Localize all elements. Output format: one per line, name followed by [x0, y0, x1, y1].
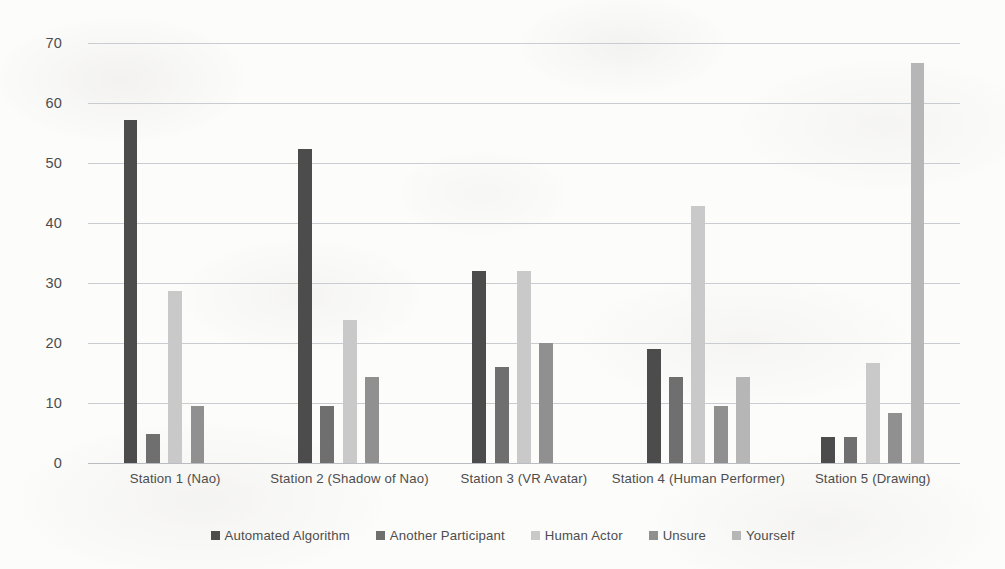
y-tick-label: 50 — [45, 155, 62, 171]
bar[interactable] — [472, 271, 486, 463]
bar[interactable] — [736, 377, 750, 463]
bar[interactable] — [539, 343, 553, 463]
gridline-0 — [88, 463, 960, 464]
y-tick-label: 40 — [45, 215, 62, 231]
plot-area — [88, 43, 960, 463]
legend-item[interactable]: Automated Algorithm — [211, 528, 350, 543]
bar-slot — [817, 43, 839, 463]
bar[interactable] — [714, 406, 728, 463]
bar-chart: 706050403020100 Station 1 (Nao)Station 2… — [0, 0, 1005, 569]
legend-item[interactable]: Human Actor — [531, 528, 623, 543]
legend-item[interactable]: Another Participant — [376, 528, 505, 543]
bar-group-bars — [294, 43, 406, 463]
bar-slot — [164, 43, 186, 463]
bar[interactable] — [866, 363, 880, 463]
bar-slot — [513, 43, 535, 463]
bar[interactable] — [691, 206, 705, 463]
bar-slot — [338, 43, 360, 463]
bar-group — [817, 43, 929, 463]
x-category-label: Station 4 (Human Performer) — [611, 470, 785, 488]
y-axis-tick-labels: 706050403020100 — [0, 43, 76, 463]
bar-group — [643, 43, 755, 463]
bar-group-bars — [119, 43, 231, 463]
x-category-label: Station 5 (Drawing) — [786, 470, 960, 488]
bar[interactable] — [647, 349, 661, 463]
bar[interactable] — [517, 271, 531, 463]
bar-slot — [839, 43, 861, 463]
bar-slot — [687, 43, 709, 463]
bar-slot — [862, 43, 884, 463]
bar-slot — [316, 43, 338, 463]
bar[interactable] — [495, 367, 509, 463]
bar-slot — [294, 43, 316, 463]
legend-label: Automated Algorithm — [225, 528, 350, 543]
legend-swatch-icon — [649, 531, 658, 540]
bar[interactable] — [821, 437, 835, 463]
x-category-label: Station 2 (Shadow of Nao) — [262, 470, 436, 488]
bar-group-bars — [817, 43, 929, 463]
bar-slot — [884, 43, 906, 463]
x-category-label: Station 3 (VR Avatar) — [437, 470, 611, 488]
bar-slot — [710, 43, 732, 463]
legend-label: Unsure — [663, 528, 706, 543]
chart-legend: Automated AlgorithmAnother ParticipantHu… — [0, 528, 1005, 543]
bar[interactable] — [146, 434, 160, 463]
bar[interactable] — [844, 437, 858, 463]
bar-group-bars — [643, 43, 755, 463]
bar[interactable] — [298, 149, 312, 463]
bar[interactable] — [669, 377, 683, 463]
legend-swatch-icon — [376, 531, 385, 540]
bar[interactable] — [320, 406, 334, 463]
bar-group — [468, 43, 580, 463]
y-tick-label: 60 — [45, 95, 62, 111]
y-tick-label: 20 — [45, 335, 62, 351]
bar-slot — [361, 43, 383, 463]
bar-group-bars — [468, 43, 580, 463]
bar-slot — [665, 43, 687, 463]
legend-item[interactable]: Unsure — [649, 528, 706, 543]
bar-slot — [491, 43, 513, 463]
bar-slot — [643, 43, 665, 463]
bar-slot — [732, 43, 754, 463]
legend-label: Human Actor — [545, 528, 623, 543]
legend-label: Another Participant — [390, 528, 505, 543]
bar[interactable] — [365, 377, 379, 463]
bar-slot — [383, 43, 405, 463]
legend-swatch-icon — [211, 531, 220, 540]
x-axis-category-labels: Station 1 (Nao)Station 2 (Shadow of Nao)… — [88, 470, 960, 516]
bar-slot — [142, 43, 164, 463]
bar[interactable] — [124, 120, 138, 463]
bar[interactable] — [168, 291, 182, 463]
x-category-label: Station 1 (Nao) — [88, 470, 262, 488]
bar-slot — [119, 43, 141, 463]
bar-slot — [468, 43, 490, 463]
y-tick-label: 70 — [45, 35, 62, 51]
legend-swatch-icon — [732, 531, 741, 540]
bar-slot — [186, 43, 208, 463]
bar-group — [294, 43, 406, 463]
legend-swatch-icon — [531, 531, 540, 540]
bar-slot — [209, 43, 231, 463]
bar[interactable] — [343, 320, 357, 463]
bar[interactable] — [911, 63, 925, 463]
bar[interactable] — [888, 413, 902, 463]
bar[interactable] — [191, 406, 205, 463]
bar-slot — [535, 43, 557, 463]
legend-label: Yourself — [746, 528, 794, 543]
bar-group — [119, 43, 231, 463]
bar-slot — [557, 43, 579, 463]
y-tick-label: 30 — [45, 275, 62, 291]
bar-slot — [906, 43, 928, 463]
legend-item[interactable]: Yourself — [732, 528, 794, 543]
y-tick-label: 10 — [45, 395, 62, 411]
y-tick-label: 0 — [54, 455, 62, 471]
